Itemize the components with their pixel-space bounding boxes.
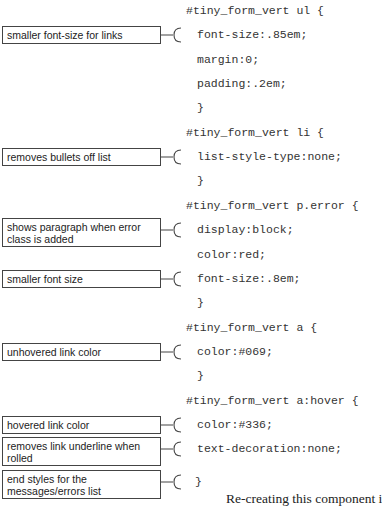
body-paragraph: Re-creating this component i <box>226 491 382 507</box>
code-line-link-color: color:#069; <box>197 345 273 359</box>
code-line-display: display:block; <box>197 223 294 237</box>
code-line-hover-color: color:#336; <box>197 418 273 432</box>
code-line-li-selector: #tiny_form_vert li { <box>186 126 324 140</box>
code-line-font-size: font-size:.85em; <box>197 28 307 42</box>
code-line-hover-selector: #tiny_form_vert a:hover { <box>186 394 359 408</box>
code-line-error-selector: #tiny_form_vert p.error { <box>186 199 359 213</box>
bracket-connector-icon <box>161 220 193 240</box>
code-line-list-style: list-style-type:none; <box>197 150 342 164</box>
bracket-connector-icon <box>161 342 193 362</box>
code-line-padding: padding:.2em; <box>197 77 287 91</box>
bracket-connector-icon <box>161 472 193 492</box>
code-line-close-brace: } <box>197 101 204 115</box>
annotation-box: smaller font size <box>2 270 161 288</box>
bracket-connector-icon <box>161 439 193 459</box>
annotation-box: hovered link color <box>2 416 161 434</box>
code-line-margin: margin:0; <box>197 53 259 67</box>
annotation-box: smaller font-size for links <box>2 26 161 44</box>
code-line-text-decoration: text-decoration:none; <box>197 442 342 456</box>
code-line-ul-selector: #tiny_form_vert ul { <box>186 4 324 18</box>
code-line-close-brace: } <box>197 174 204 188</box>
code-line-font-size-small: font-size:.8em; <box>197 272 301 286</box>
bracket-connector-icon <box>161 147 193 167</box>
code-line-final-brace: } <box>195 475 202 489</box>
annotation-box: shows paragraph when error class is adde… <box>2 218 161 247</box>
bracket-connector-icon <box>161 415 193 435</box>
bracket-connector-icon <box>161 25 193 45</box>
annotation-box: end styles for the messages/errors list <box>2 470 161 499</box>
annotation-box: unhovered link color <box>2 343 161 361</box>
annotation-box: removes bullets off list <box>2 148 161 166</box>
code-line-a-selector: #tiny_form_vert a { <box>186 321 317 335</box>
code-line-close-brace: } <box>197 369 204 383</box>
code-line-close-brace: } <box>197 296 204 310</box>
bracket-connector-icon <box>161 269 193 289</box>
code-line-color-red: color:red; <box>197 248 266 262</box>
annotation-box: removes link underline when rolled <box>2 437 161 466</box>
